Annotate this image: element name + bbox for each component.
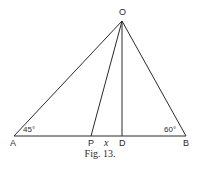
point-label-O: O: [119, 8, 126, 17]
line-OP: [91, 21, 122, 136]
line-OA: [14, 21, 122, 136]
angle-label-A: 45°: [23, 126, 35, 134]
point-label-D: D: [119, 139, 126, 148]
point-label-A: A: [10, 139, 16, 148]
figure: O A P x D B 45° 60° Fig. 13.: [0, 0, 200, 170]
segment-label-x: x: [104, 138, 108, 148]
point-label-B: B: [183, 139, 189, 148]
point-label-P: P: [88, 139, 94, 148]
triangle-diagram: [0, 0, 200, 170]
figure-caption: Fig. 13.: [0, 148, 200, 159]
line-OB: [122, 21, 186, 136]
angle-label-B: 60°: [164, 126, 176, 134]
